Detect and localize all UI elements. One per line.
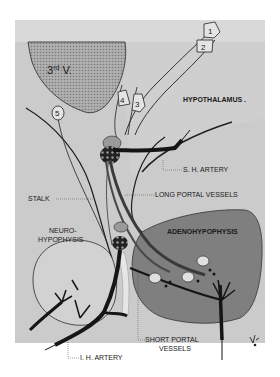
svg-text:1: 1 <box>208 27 213 36</box>
nucleus-5: 5 <box>52 106 64 120</box>
stalk-label: STALK <box>28 195 50 202</box>
ih-artery-tip <box>45 345 55 350</box>
short-portal-label-line2: VESSELS <box>159 345 191 352</box>
nucleus-2: 2 <box>197 40 213 52</box>
adenohypophysis-label: ADENOHYPOPHYSIS <box>167 228 238 235</box>
third-ventricle-label: 3rd V. <box>47 64 72 76</box>
neurohypophysis-label-line1: NEURO- <box>49 227 77 234</box>
svg-text:5: 5 <box>55 109 60 118</box>
pituitary-portal-diagram: 1 2 3 4 5 <box>0 0 280 377</box>
long-portal-label: LONG PORTAL VESSELS <box>155 191 238 198</box>
sh-artery-label: S. H. ARTERY <box>183 166 229 173</box>
top-band <box>15 20 265 42</box>
adenohypophysis-region <box>132 210 262 324</box>
neurohypophysis-label-line2: HYPOPHYSIS <box>38 236 84 243</box>
short-portal-label-line1: SHORT PORTAL <box>145 336 199 343</box>
svg-text:2: 2 <box>201 43 206 52</box>
ih-artery-leader <box>68 342 79 358</box>
svg-text:4: 4 <box>120 96 125 105</box>
svg-text:3: 3 <box>135 100 140 109</box>
hypothalamus-label: HYPOTHALAMUS . <box>183 96 246 103</box>
ih-artery-label: I. H. ARTERY <box>80 354 123 361</box>
